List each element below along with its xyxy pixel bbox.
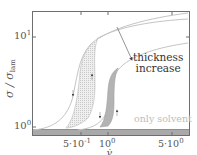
- x-tick-5e-1: 5·10-1: [63, 139, 91, 149]
- thickness-arrow: [117, 27, 132, 60]
- x-tick-base: 5·10: [63, 138, 84, 149]
- hysteresis-loop-1: [66, 38, 98, 128]
- y-tick-exp: 1: [27, 29, 31, 37]
- x-tick-base: 5·10: [158, 138, 179, 149]
- x-tick-exp: 0: [179, 137, 183, 145]
- chart-plot: [0, 0, 197, 155]
- y-tick-exp: 0: [27, 119, 31, 127]
- x-tick-5e0: 5·100: [158, 139, 184, 149]
- y-axis-label: σ / σlam: [4, 59, 15, 98]
- y-tick-10-0: 100: [14, 121, 31, 131]
- x-tick-exp: -1: [84, 137, 91, 145]
- thickness-increase-label: thickness increase: [133, 52, 183, 74]
- y-label-sub: lam: [9, 59, 17, 72]
- y-label-main: σ / σ: [3, 72, 16, 98]
- annot-line-2: increase: [133, 63, 183, 74]
- only-solvent-label: only solvent: [134, 114, 192, 124]
- y-tick-base: 10: [14, 120, 27, 131]
- x-axis-label: γ̇: [106, 148, 112, 155]
- y-tick-base: 10: [14, 30, 27, 41]
- x-tick-exp: 0: [111, 137, 115, 145]
- y-tick-10-1: 101: [14, 31, 31, 41]
